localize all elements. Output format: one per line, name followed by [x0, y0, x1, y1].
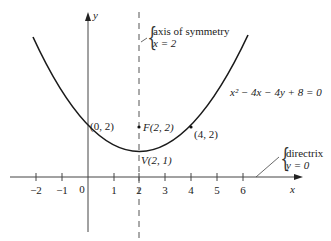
tick-label: 6 — [235, 184, 251, 196]
origin-label: 0 — [74, 183, 90, 195]
tick-label: 2 — [131, 184, 147, 196]
axis-of-symmetry-equation: x = 2 — [153, 37, 176, 49]
point-4-2-label: (4, 2) — [194, 128, 218, 140]
tick-label: 3 — [157, 184, 173, 196]
x-axis-arrow-icon — [294, 174, 303, 180]
tick-label: 4 — [183, 184, 199, 196]
tick-label: 5 — [209, 184, 225, 196]
directrix-leader-line — [256, 157, 279, 177]
x-axis-label: x — [290, 183, 295, 195]
focus-label: F(2, 2) — [143, 121, 174, 133]
point-4-2 — [189, 125, 192, 128]
directrix-equation: y = 0 — [286, 159, 309, 171]
tick-label: −2 — [28, 184, 44, 196]
y-axis-label: y — [93, 9, 98, 21]
directrix-label: directrix — [286, 147, 323, 159]
parabola-equation: x² − 4x − 4y + 8 = 0 — [230, 86, 322, 98]
focus-point — [137, 125, 140, 128]
vertex-label: V(2, 1) — [141, 154, 172, 166]
axis-leader-line — [141, 38, 147, 42]
tick-label: 1 — [106, 184, 122, 196]
y-axis-arrow-icon — [85, 12, 91, 21]
tick-label: −1 — [54, 184, 70, 196]
y-intercept-label: (0, 2) — [90, 120, 114, 132]
axis-of-symmetry-label: axis of symmetry — [153, 25, 229, 37]
